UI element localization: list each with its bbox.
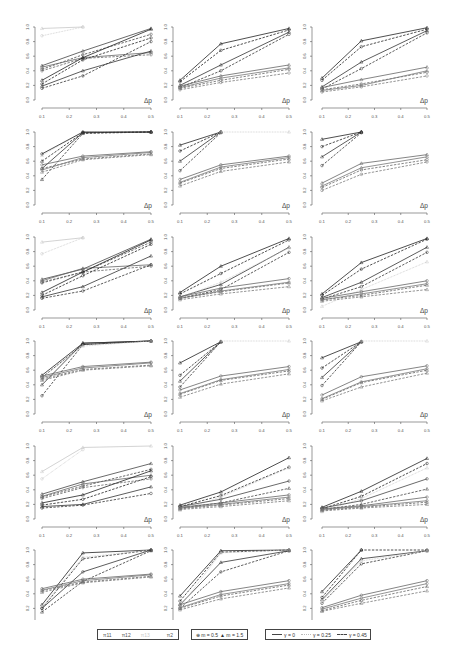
legend-line-gamma025-label: γ = 0.25: [313, 632, 331, 638]
y-tick-label: 0.2: [302, 187, 307, 193]
x-axis-label: Δp: [144, 97, 152, 105]
x-tick-label: 0.3: [372, 428, 378, 433]
y-tick-label: 0.8: [302, 248, 307, 254]
series-line: [322, 550, 361, 592]
x-tick-label: 0.5: [424, 219, 430, 224]
legend-group-3: π13: [141, 632, 150, 638]
y-tick-label: 0.6: [302, 158, 307, 164]
y-tick-label: 0.4: [163, 67, 168, 73]
x-axis-label: Δp: [282, 202, 290, 210]
x-tick-label: 0.2: [66, 533, 72, 538]
panel-r2-c0: 0.00.20.40.60.81.00.10.20.30.40.5Δp: [25, 233, 155, 329]
x-tick-label: 0.4: [121, 533, 127, 538]
legend-line-gamma045-label: γ = 0.45: [349, 632, 367, 638]
series-line: [180, 342, 221, 363]
x-tick-label: 0.1: [319, 114, 325, 119]
series-line: [180, 342, 221, 387]
y-tick-label: 0.8: [302, 457, 307, 463]
y-tick-label: 0.8: [25, 38, 30, 44]
x-tick-label: 0.3: [232, 428, 238, 433]
y-tick-label: 0.6: [163, 158, 168, 164]
y-tick-label: 0.8: [163, 352, 168, 358]
x-tick-label: 0.5: [286, 533, 292, 538]
y-tick-label: 0.4: [25, 486, 30, 492]
series-line: [322, 342, 361, 368]
x-tick-label: 0.5: [148, 219, 154, 224]
y-tick-label: 0.6: [25, 367, 30, 373]
legend-line-gamma025: γ = 0.25: [301, 632, 331, 638]
y-tick-label: 0.8: [302, 143, 307, 149]
x-tick-label: 0.5: [148, 533, 154, 538]
y-tick-label: 0.0: [25, 410, 30, 416]
y-tick-label: 0.0: [163, 515, 168, 521]
series-line: [180, 28, 289, 80]
y-tick-label: 0.6: [25, 263, 30, 269]
y-tick-label: 0.4: [25, 590, 30, 596]
y-tick-label: 1.0: [163, 128, 168, 134]
series-line: [180, 283, 289, 298]
y-tick-label: 0.8: [25, 561, 30, 567]
x-tick-label: 0.2: [345, 324, 351, 329]
y-tick-label: 0.8: [302, 352, 307, 358]
panel-r1-c2: 0.00.20.40.60.81.00.10.20.30.40.5Δp: [302, 128, 431, 224]
panel-r4-c0: 0.00.20.40.60.81.00.10.20.30.40.5Δp: [25, 442, 155, 538]
y-tick-label: 0.8: [163, 457, 168, 463]
y-tick-label: 0.2: [302, 396, 307, 402]
series-line: [42, 239, 151, 279]
y-tick-label: 0.0: [302, 410, 307, 416]
triangle-marker-icon: [426, 487, 429, 490]
x-tick-label: 0.4: [259, 324, 265, 329]
series-line: [42, 28, 151, 65]
y-tick-label: 0.4: [302, 277, 307, 283]
y-tick-label: 0.0: [163, 96, 168, 102]
y-tick-label: 0.0: [302, 96, 307, 102]
legend-markers: ⊕ m = 0.5 ▲ m = 1.5: [191, 629, 248, 640]
series-line: [42, 464, 151, 495]
y-tick-label: 0.0: [25, 306, 30, 312]
x-tick-label: 0.4: [398, 428, 404, 433]
y-tick-label: 0.0: [25, 96, 30, 102]
triangle-marker-icon: [288, 63, 291, 66]
series-line: [322, 133, 361, 166]
triangle-marker-icon: [426, 585, 429, 588]
y-tick-label: 0.6: [302, 367, 307, 373]
y-tick-label: 0.4: [25, 277, 30, 283]
x-tick-label: 0.3: [94, 324, 100, 329]
series-line: [322, 76, 427, 92]
series-line: [42, 471, 151, 503]
series-line: [42, 341, 151, 375]
circle-plus-marker-icon: [426, 75, 429, 78]
series-line: [322, 157, 427, 186]
y-tick-label: 0.0: [163, 201, 168, 207]
x-tick-label: 0.3: [372, 324, 378, 329]
series-line: [42, 38, 151, 84]
series-line: [180, 588, 289, 610]
x-axis-label: Δp: [420, 411, 428, 419]
x-tick-label: 0.1: [177, 114, 183, 119]
y-tick-label: 0.2: [25, 396, 30, 402]
x-axis-label: Δp: [282, 411, 290, 419]
panel-r5-c2: 0.00.20.40.60.81.00.10.20.30.40.5Δp: [302, 546, 431, 620]
x-axis-label: Δp: [282, 307, 290, 315]
x-tick-label: 0.2: [204, 428, 210, 433]
panel-r5-c0: 0.00.20.40.60.81.00.10.20.30.40.5Δp: [25, 546, 155, 620]
y-tick-label: 0.2: [302, 501, 307, 507]
y-tick-label: 0.4: [25, 67, 30, 73]
x-tick-label: 0.2: [66, 428, 72, 433]
triangle-marker-icon: [426, 466, 429, 469]
x-tick-label: 0.4: [121, 324, 127, 329]
series-line: [322, 551, 427, 601]
series-line: [322, 239, 427, 295]
series-line: [322, 28, 427, 78]
y-tick-label: 0.4: [163, 172, 168, 178]
y-tick-label: 0.4: [302, 67, 307, 73]
series-line: [180, 69, 289, 88]
circle-plus-marker-icon: [288, 72, 291, 75]
y-tick-label: 0.6: [25, 576, 30, 582]
series-line: [42, 450, 83, 479]
x-tick-label: 0.4: [259, 219, 265, 224]
y-tick-label: 0.6: [163, 472, 168, 478]
y-tick-label: 0.0: [302, 201, 307, 207]
y-tick-label: 0.8: [25, 143, 30, 149]
legend-group-2: π12: [122, 632, 131, 638]
